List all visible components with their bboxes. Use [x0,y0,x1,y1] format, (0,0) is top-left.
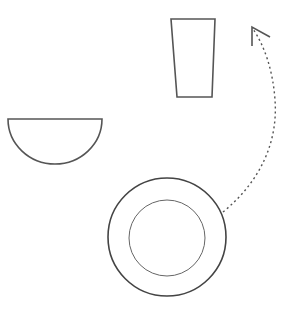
plate-icon [108,178,226,296]
bowl-icon [8,119,102,164]
cup-icon [171,19,215,97]
arrowhead-icon [252,27,270,46]
dashed-arrow-icon [223,27,275,212]
diagram-canvas [0,0,288,310]
diagram-svg [0,0,288,310]
